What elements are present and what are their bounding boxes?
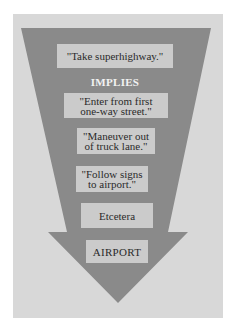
etcetera-text: Etcetera xyxy=(99,211,135,221)
step-box-2: "Maneuver out of truck lane." xyxy=(77,128,155,154)
step-2-line-2: of truck lane." xyxy=(85,141,148,151)
step-box-1: "Enter from first one-way street." xyxy=(64,93,168,118)
airport-text: AIRPORT xyxy=(93,247,142,257)
step-box-3: "Follow signs to airport." xyxy=(76,166,148,192)
top-goal-text: "Take superhighway." xyxy=(67,51,164,61)
top-goal-box: "Take superhighway." xyxy=(57,44,173,68)
step-1-line-1: "Enter from first xyxy=(80,96,153,106)
implies-label: IMPLIES xyxy=(60,76,170,88)
etcetera-box: Etcetera xyxy=(81,203,153,228)
step-1-line-2: one-way street." xyxy=(80,106,152,116)
airport-box: AIRPORT xyxy=(86,240,148,263)
step-3-line-2: to airport." xyxy=(88,179,136,189)
